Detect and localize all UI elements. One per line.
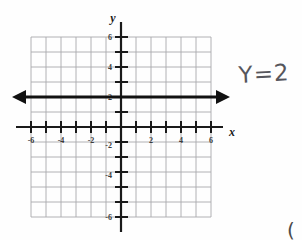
y-tick-label: 6: [108, 33, 112, 42]
right-arrowhead: [216, 90, 230, 104]
coordinate-plane-graph: -6 -4 -2 2 4 6 6 4 2 -2 -4 -6 y x: [0, 0, 302, 240]
y-tick-label: -4: [105, 171, 112, 180]
corner-pen-mark: (: [287, 218, 296, 240]
x-tick-label: 6: [209, 136, 213, 145]
worksheet-page: -6 -4 -2 2 4 6 6 4 2 -2 -4 -6 y x Y=2: [0, 0, 302, 240]
handwritten-equation-text: Y=2: [238, 59, 290, 88]
x-tick-label: 4: [179, 136, 183, 145]
axes: [16, 22, 223, 232]
y-tick-label: -6: [105, 213, 112, 222]
x-tick-label: 2: [149, 136, 153, 145]
x-axis-label: x: [228, 125, 235, 139]
x-tick-label: -6: [28, 136, 35, 145]
corner-mark-text: (: [287, 218, 296, 240]
handwritten-answer-annotation: Y=2: [238, 59, 290, 88]
x-tick-label: -2: [88, 136, 95, 145]
y-axis-label: y: [108, 11, 116, 25]
y-tick-label: -2: [105, 141, 112, 150]
y-tick-label: 4: [108, 63, 112, 72]
x-tick-label: -4: [58, 136, 65, 145]
left-arrowhead: [12, 90, 26, 104]
